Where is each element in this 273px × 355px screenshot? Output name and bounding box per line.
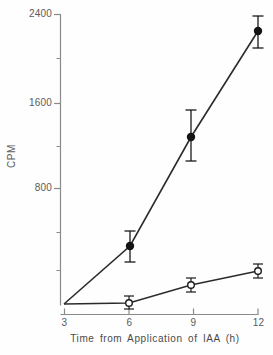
y-tick-label-2400: 2400 <box>8 8 52 19</box>
x-tick-label-6: 6 <box>117 317 142 328</box>
x-tick-label-9: 9 <box>181 317 206 328</box>
markers-open <box>126 268 262 307</box>
x-axis-ticks <box>65 309 259 315</box>
y-axis-major-ticks <box>54 15 61 189</box>
y-tick-label-800: 800 <box>8 182 52 193</box>
y-axis-title: CPM <box>6 136 17 176</box>
series-filled-circle <box>64 16 264 304</box>
series-open-circle <box>64 264 263 309</box>
axis-lines <box>61 14 259 315</box>
x-axis-title: Time from Application of IAA (h) <box>40 333 270 344</box>
chart-figure: 2400 1600 800 3 6 9 12 CPM Time from App… <box>0 0 273 355</box>
y-tick-label-1600: 1600 <box>8 97 52 108</box>
x-tick-label-3: 3 <box>52 317 77 328</box>
x-tick-label-12: 12 <box>246 317 271 328</box>
chart-plot-area <box>0 0 273 355</box>
